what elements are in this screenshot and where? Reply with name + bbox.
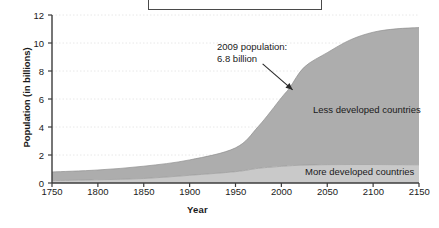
x-tick-label-2150: 2150 — [397, 186, 439, 197]
y-tick-label-4: 4 — [14, 122, 44, 133]
y-tick-label-12: 12 — [14, 10, 44, 21]
x-tick-label-2000: 2000 — [260, 186, 304, 197]
annotation-arrow — [263, 64, 293, 90]
population-growth-chart: Population (in billions) 12 10 8 6 4 2 0… — [0, 0, 439, 228]
x-axis-title-text: Year — [187, 204, 208, 215]
x-axis-title: Year — [0, 204, 439, 215]
x-tick-label-1850: 1850 — [122, 186, 166, 197]
y-tick-label-10: 10 — [14, 38, 44, 49]
x-tick-label-1900: 1900 — [168, 186, 212, 197]
annotation-line-2: 6.8 billion — [217, 53, 287, 65]
series-label-more-developed: More developed countries — [305, 166, 414, 177]
y-tick-label-8: 8 — [14, 66, 44, 77]
title-box — [148, 0, 322, 10]
annotation-2009-population: 2009 population: 6.8 billion — [217, 41, 287, 65]
y-tick-label-6: 6 — [14, 94, 44, 105]
x-tick-label-1750: 1750 — [30, 186, 74, 197]
annotation-line-1: 2009 population: — [217, 41, 287, 53]
x-tick-label-2050: 2050 — [306, 186, 350, 197]
y-tick-label-2: 2 — [14, 150, 44, 161]
series-label-less-developed: Less developed countries — [313, 104, 421, 115]
x-tick-label-1800: 1800 — [76, 186, 120, 197]
x-tick-label-2100: 2100 — [351, 186, 395, 197]
x-tick-label-1950: 1950 — [214, 186, 258, 197]
